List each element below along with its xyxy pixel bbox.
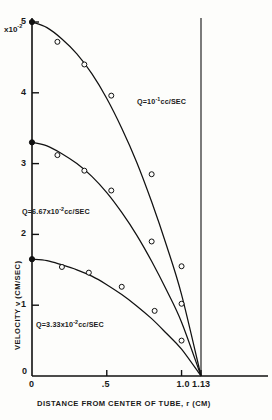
data-point-marker [152, 308, 157, 313]
velocity-profile-figure: x10-2 VELOCITY v (CM/SEC) DISTANCE FROM … [0, 0, 272, 420]
data-point-marker [29, 140, 34, 145]
curve-label-q2: Q=6.67x10-2cc/SEC [22, 207, 90, 216]
data-point-marker [179, 264, 184, 269]
x-tick-label: 1.0 [177, 380, 190, 389]
y-tick-label: 4 [21, 88, 26, 97]
curve-fit-line [32, 142, 201, 376]
y-tick-label: 3 [21, 159, 26, 168]
curve-label-q2-prefix: Q=6.67x10 [22, 207, 59, 216]
y-tick-label: 5 [21, 17, 26, 26]
y-tick-label: 2 [21, 229, 26, 238]
y-axis-scale-factor: x10-2 [4, 24, 22, 34]
data-point-marker [59, 264, 64, 269]
curve-label-q1-suffix: cc/SEC [160, 97, 186, 106]
data-point-marker [82, 62, 87, 67]
data-point-marker [55, 39, 60, 44]
data-point-marker [149, 172, 154, 177]
scale-factor-mantissa: x10 [4, 25, 17, 34]
data-point-marker [119, 284, 124, 289]
curve-label-q3-suffix: cc/SEC [78, 320, 104, 329]
curve-label-q1: Q=10-1cc/SEC [137, 97, 186, 106]
curve-label-q3: Q=3.33x10-2cc/SEC [36, 320, 104, 329]
curve-label-q2-suffix: cc/SEC [64, 207, 90, 216]
y-tick-label: 1 [21, 300, 26, 309]
data-point-marker [29, 19, 34, 24]
x-tick-label: 1.13 [192, 380, 210, 389]
x-tick-label: 0 [29, 380, 34, 389]
origin-tick-label: 0 [22, 367, 27, 376]
data-point-marker [179, 301, 184, 306]
data-point-marker [179, 338, 184, 343]
data-point-marker [109, 188, 114, 193]
x-tick-label: .5 [102, 380, 110, 389]
curve-label-q1-prefix: Q=10 [137, 97, 155, 106]
curve-fit-line [32, 259, 201, 376]
data-point-marker [82, 168, 87, 173]
data-point-marker [149, 239, 154, 244]
curve-label-q3-prefix: Q=3.33x10 [36, 320, 73, 329]
data-point-marker [55, 153, 60, 158]
data-point-marker [109, 93, 114, 98]
data-point-marker [29, 257, 34, 262]
x-axis-title: DISTANCE FROM CENTER OF TUBE, r (CM) [37, 400, 211, 408]
data-point-marker [86, 270, 91, 275]
data-point-markers [29, 19, 184, 343]
